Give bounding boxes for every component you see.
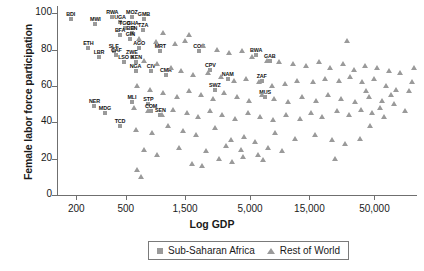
data-point [128, 37, 132, 41]
data-point [182, 38, 188, 43]
data-point [92, 104, 96, 108]
data-point [130, 100, 134, 104]
legend-item-rest-of-world: Rest of World [267, 245, 340, 256]
data-point [170, 107, 176, 112]
data-point-label: BDI [66, 11, 75, 17]
data-point [118, 33, 122, 37]
data-point-label: LSO [118, 54, 129, 60]
x-tick-label: 15,000 [279, 203, 339, 214]
data-point [255, 152, 261, 157]
data-point [203, 148, 209, 153]
data-point-label: SWZ [209, 82, 221, 88]
data-point [283, 112, 289, 117]
x-tick-mark [250, 195, 251, 200]
data-point [103, 111, 107, 115]
legend-label: Rest of World [280, 245, 340, 256]
data-point [241, 134, 247, 139]
data-point [344, 38, 350, 43]
data-point [165, 123, 171, 128]
data-point [184, 110, 190, 115]
data-point [164, 73, 168, 77]
data-point [290, 61, 296, 66]
y-tick-label: 60 [0, 79, 60, 90]
x-tick-mark [374, 195, 375, 200]
data-point-label: BFA [115, 27, 125, 33]
data-point-label: BWA [250, 47, 262, 53]
data-point [228, 137, 234, 142]
data-point [282, 81, 288, 86]
data-point-label: LBR [94, 49, 105, 55]
x-tick-mark [126, 195, 127, 200]
data-point [218, 74, 224, 79]
data-point [134, 69, 138, 73]
x-axis-title: Log GDP [0, 218, 424, 230]
data-point [332, 156, 338, 161]
data-point [153, 39, 159, 44]
data-point [352, 99, 358, 104]
data-point [319, 114, 325, 119]
data-point [238, 147, 244, 152]
data-point [379, 98, 385, 103]
data-point [232, 116, 238, 121]
data-point [219, 112, 225, 117]
data-point [351, 67, 357, 72]
data-point [358, 107, 364, 112]
data-point [299, 94, 305, 99]
data-point [160, 30, 166, 35]
data-point [198, 92, 204, 97]
data-point-label: TCD [115, 118, 126, 124]
data-point [292, 136, 298, 141]
data-point [312, 132, 318, 137]
data-point [142, 17, 146, 21]
data-point-label: TZA [138, 22, 148, 28]
data-point [303, 63, 309, 68]
data-point [257, 114, 263, 119]
data-point [357, 136, 363, 141]
data-point [131, 105, 137, 110]
y-tick-label: 80 [0, 43, 60, 54]
data-point-label: NGA [130, 63, 142, 69]
data-point [245, 110, 251, 115]
legend-label: Sub-Saharan Africa [168, 245, 255, 256]
square-marker-icon [157, 248, 163, 254]
data-point [207, 108, 213, 113]
data-point [367, 123, 373, 128]
data-point [322, 76, 328, 81]
data-point [172, 41, 178, 46]
data-point [359, 79, 365, 84]
data-point [176, 145, 182, 150]
x-tick-mark [76, 195, 77, 200]
data-point [93, 22, 97, 26]
data-point [141, 28, 145, 32]
data-point [226, 77, 230, 81]
data-point [246, 98, 252, 103]
data-point-label: MOZ [126, 9, 138, 15]
data-point [411, 65, 417, 70]
data-point [197, 49, 201, 53]
data-point [216, 156, 222, 161]
data-point [272, 130, 278, 135]
data-point-label: ETH [83, 40, 93, 46]
data-point [243, 76, 249, 81]
data-point-label: MWI [90, 16, 101, 22]
data-point [149, 130, 155, 135]
data-point [154, 152, 160, 157]
data-point [186, 32, 192, 37]
data-point [231, 78, 237, 83]
data-point [158, 49, 162, 53]
data-point [147, 87, 153, 92]
data-point [406, 88, 412, 93]
data-point [168, 65, 174, 70]
data-point [264, 58, 270, 63]
data-point [159, 112, 165, 117]
data-point [122, 60, 126, 64]
x-tick-label: 50,000 [344, 203, 404, 214]
data-point [240, 154, 246, 159]
data-point [338, 96, 344, 101]
data-point [388, 92, 394, 97]
data-point [136, 36, 142, 41]
data-point [141, 58, 147, 63]
data-point [249, 54, 255, 59]
x-tick-label: 5,000 [220, 203, 280, 214]
data-point [369, 110, 375, 115]
